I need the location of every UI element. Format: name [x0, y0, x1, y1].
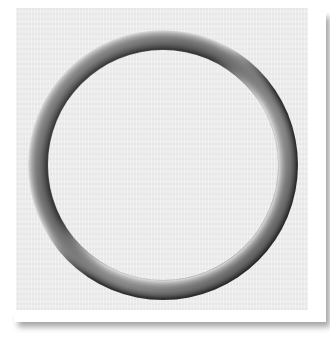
photo-frame — [10, 4, 318, 316]
ring-icon — [16, 8, 308, 310]
ring-body — [16, 8, 308, 310]
textured-panel — [16, 8, 308, 310]
image-stage — [0, 0, 330, 348]
